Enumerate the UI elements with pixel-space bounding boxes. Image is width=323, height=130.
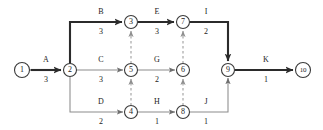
node-label-2: 2 xyxy=(68,65,72,74)
node-label-10: 10 xyxy=(300,66,307,74)
node-9: 9 xyxy=(222,64,235,77)
activity-duration-C: 3 xyxy=(99,75,103,84)
activity-duration-B: 3 xyxy=(99,27,103,36)
node-label-1: 1 xyxy=(20,65,24,74)
network-diagram-canvas: A 3 B 3 C 3 D 2 E 3 G xyxy=(0,0,323,130)
node-8: 8 xyxy=(177,106,190,119)
node-label-6: 6 xyxy=(181,65,185,74)
activity-edge-H: H 1 xyxy=(138,97,175,126)
node-label-5: 5 xyxy=(129,65,133,74)
node-2: 2 xyxy=(64,64,77,77)
activity-label-B: B xyxy=(98,7,103,16)
activity-edge-I: I 2 xyxy=(190,7,228,61)
activity-label-K: K xyxy=(263,55,269,64)
activity-label-I: I xyxy=(205,7,208,16)
activity-label-E: E xyxy=(155,7,160,16)
node-label-8: 8 xyxy=(181,107,185,116)
activity-edge-K: K 1 xyxy=(235,55,293,84)
activity-edge-D: D 2 xyxy=(70,76,123,126)
node-1: 1 xyxy=(15,63,30,78)
network-diagram: A 3 B 3 C 3 D 2 E 3 G xyxy=(0,0,323,130)
activity-duration-A: 3 xyxy=(44,75,48,84)
activity-duration-H: 1 xyxy=(155,117,159,126)
activity-duration-G: 2 xyxy=(155,75,159,84)
activity-edge-C: C 3 xyxy=(77,55,123,84)
edge-line-D xyxy=(70,76,123,112)
activity-edge-G: G 2 xyxy=(138,55,175,84)
node-6: 6 xyxy=(177,64,190,77)
edge-line-J xyxy=(190,78,228,112)
activity-label-A: A xyxy=(43,55,49,64)
activity-duration-K: 1 xyxy=(264,75,268,84)
activity-label-J: J xyxy=(204,97,207,106)
node-label-3: 3 xyxy=(129,17,133,26)
activity-duration-D: 2 xyxy=(99,117,103,126)
activity-label-C: C xyxy=(98,55,103,64)
activity-label-D: D xyxy=(98,97,104,106)
activity-edge-J: J 1 xyxy=(190,78,228,126)
node-label-7: 7 xyxy=(181,17,185,26)
activity-duration-E: 3 xyxy=(155,27,159,36)
activity-duration-I: 2 xyxy=(204,27,208,36)
node-7: 7 xyxy=(177,16,190,29)
edge-line-B xyxy=(70,22,122,64)
node-5: 5 xyxy=(125,64,138,77)
node-4: 4 xyxy=(125,106,138,119)
node-3: 3 xyxy=(125,16,138,29)
activity-label-H: H xyxy=(154,97,160,106)
activity-edge-B: B 3 xyxy=(70,7,122,64)
activity-edge-A: A 3 xyxy=(31,55,62,84)
node-10: 10 xyxy=(296,63,311,78)
activity-duration-J: 1 xyxy=(204,117,208,126)
node-label-4: 4 xyxy=(129,107,133,116)
activity-label-G: G xyxy=(154,55,160,64)
edge-line-I xyxy=(190,22,228,61)
activity-edge-E: E 3 xyxy=(138,7,174,36)
node-label-9: 9 xyxy=(226,65,230,74)
